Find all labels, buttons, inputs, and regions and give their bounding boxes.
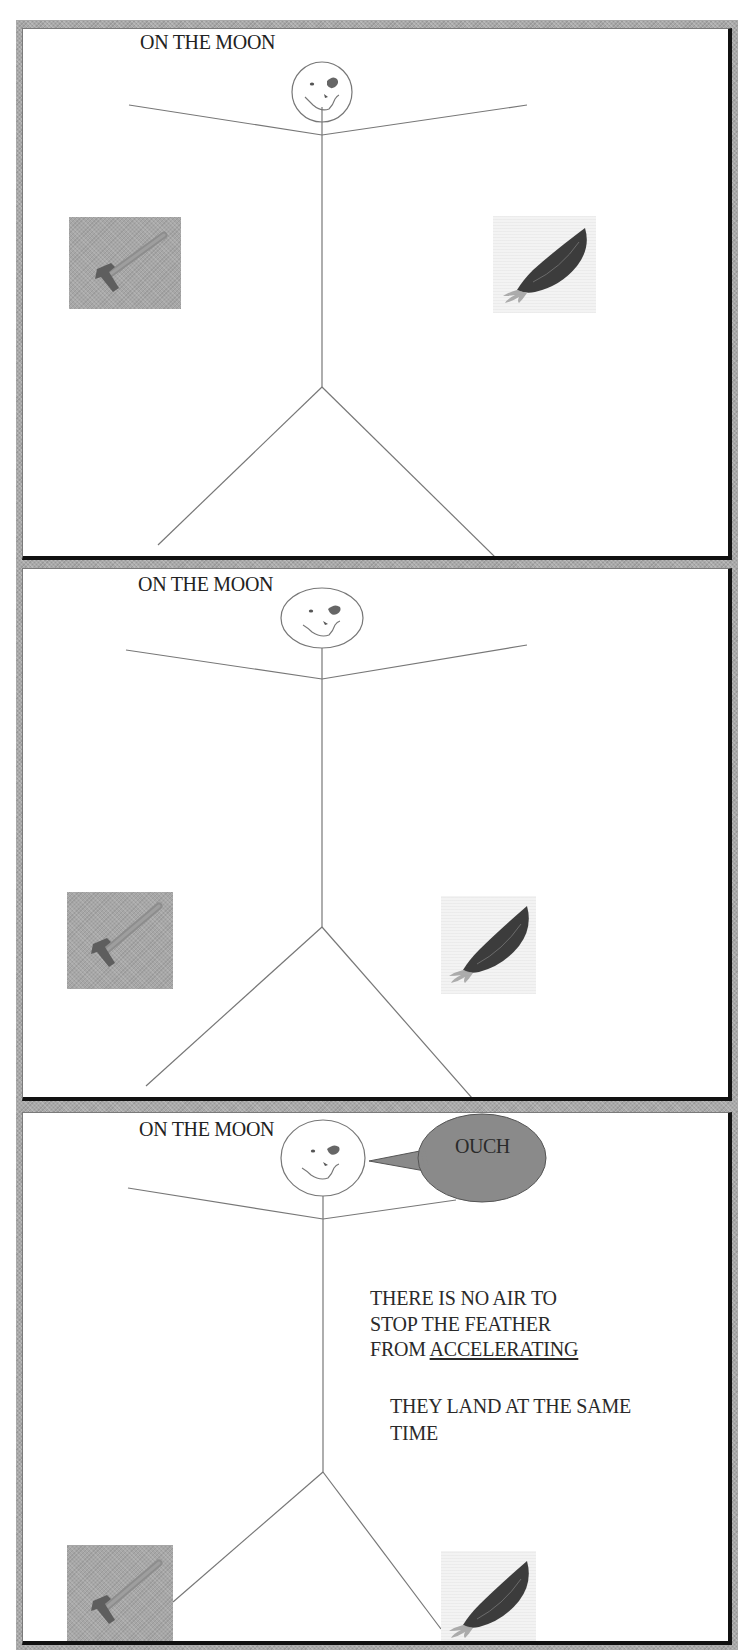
panel-caption: ON THE MOON	[139, 1118, 274, 1141]
hammer-icon	[67, 892, 173, 989]
stick-figure-body	[129, 105, 527, 557]
speech-bubble	[369, 1114, 546, 1202]
panel-2: ON THE MOON	[22, 568, 732, 1101]
panel-caption: ON THE MOON	[140, 31, 275, 54]
stick-figure-scene-2	[23, 569, 732, 1101]
panel-caption: ON THE MOON	[138, 573, 273, 596]
explanation-line-prefix: FROM	[370, 1338, 430, 1360]
feather-icon	[493, 216, 596, 313]
hammer-image	[67, 1545, 173, 1645]
conclusion-line: THEY LAND AT THE SAME	[390, 1393, 631, 1420]
conclusion-text: THEY LAND AT THE SAME TIME	[390, 1393, 631, 1447]
panel-1: ON THE MOON	[22, 28, 732, 560]
feather-image	[441, 896, 536, 994]
feather-image	[493, 216, 596, 313]
explanation-line: STOP THE FEATHER	[370, 1312, 578, 1338]
hammer-icon	[69, 217, 181, 309]
stick-figure-body	[126, 645, 527, 1098]
explanation-text: THERE IS NO AIR TO STOP THE FEATHER FROM…	[370, 1286, 578, 1363]
feather-icon	[441, 896, 536, 994]
stick-figure-head	[281, 1120, 365, 1196]
explanation-line: THERE IS NO AIR TO	[370, 1286, 578, 1312]
panel-3: ON THE MOON OUCH THERE IS NO AIR TO STOP…	[22, 1112, 732, 1645]
hammer-icon	[67, 1545, 173, 1645]
feather-image	[441, 1551, 536, 1645]
speech-bubble-text: OUCH	[455, 1135, 510, 1158]
hammer-image	[67, 892, 173, 989]
underlined-keyword: ACCELERATING	[430, 1338, 579, 1360]
stick-figure-head	[281, 588, 363, 648]
explanation-line: FROM ACCELERATING	[370, 1337, 578, 1363]
hammer-image	[69, 217, 181, 309]
feather-icon	[441, 1551, 536, 1645]
conclusion-line: TIME	[390, 1420, 631, 1447]
